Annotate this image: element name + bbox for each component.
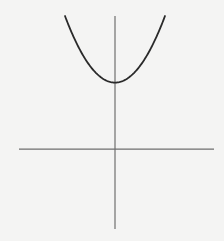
coordinate-plane (0, 0, 224, 241)
parabola-plot (0, 0, 224, 241)
